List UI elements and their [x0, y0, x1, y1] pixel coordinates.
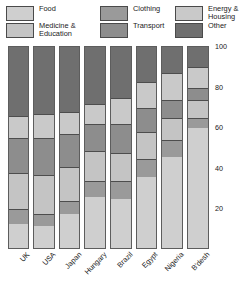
legend-label-other: Other — [208, 22, 226, 30]
x-tick-label: Nigeria — [163, 250, 186, 273]
segment-energy — [34, 114, 54, 138]
bar-japan — [59, 46, 81, 249]
segment-food — [162, 157, 182, 248]
legend-item-medicine: Medicine & Education — [6, 22, 76, 38]
y-axis: 20406080100 — [211, 46, 247, 249]
segment-food — [188, 128, 208, 248]
y-tick-label: 80 — [215, 82, 223, 91]
y-tick-label: 40 — [215, 163, 223, 172]
segment-medicine — [111, 153, 131, 181]
segment-clothing — [162, 140, 182, 156]
segment-energy — [60, 112, 80, 134]
segment-clothing — [188, 118, 208, 128]
segment-clothing — [137, 159, 157, 177]
segment-food — [34, 226, 54, 248]
stacked-bar-chart: FoodMedicine & EducationClothingTranspor… — [0, 0, 247, 282]
segment-medicine — [162, 118, 182, 140]
bar-bdesh — [187, 46, 209, 249]
bar-egypt — [136, 46, 158, 249]
segment-medicine — [188, 100, 208, 118]
segment-other — [34, 46, 54, 114]
bar-uk — [8, 46, 30, 249]
segment-transport — [162, 100, 182, 118]
legend-label-food: Food — [39, 5, 56, 13]
segment-transport — [85, 124, 105, 150]
bar-usa — [33, 46, 55, 249]
y-tick-label: 100 — [215, 42, 227, 51]
segment-transport — [188, 88, 208, 100]
segment-transport — [34, 138, 54, 175]
legend-swatch-clothing — [100, 6, 128, 21]
segment-clothing — [85, 181, 105, 197]
segment-clothing — [111, 181, 131, 199]
x-axis: UKUSAJapanHungaryBrazilEgyptNigeriaB'des… — [6, 250, 216, 282]
segment-energy — [9, 116, 29, 138]
bar-hungary — [84, 46, 106, 249]
segment-clothing — [9, 209, 29, 223]
legend-item-other: Other — [175, 22, 226, 38]
segment-energy — [111, 98, 131, 124]
segment-food — [137, 177, 157, 248]
segment-energy — [162, 73, 182, 99]
segment-food — [9, 224, 29, 248]
segment-clothing — [60, 201, 80, 213]
segment-food — [111, 199, 131, 248]
plot-area — [6, 46, 211, 249]
legend-swatch-transport — [100, 23, 128, 38]
segment-transport — [137, 108, 157, 132]
segment-medicine — [34, 175, 54, 214]
bar-nigeria — [161, 46, 183, 249]
segment-medicine — [85, 151, 105, 181]
segment-transport — [9, 138, 29, 173]
y-tick-label: 60 — [215, 123, 223, 132]
segment-other — [111, 46, 131, 98]
segment-other — [60, 46, 80, 112]
legend-swatch-energy — [175, 6, 203, 21]
segment-energy — [188, 67, 208, 87]
legend-swatch-food — [6, 6, 34, 21]
segment-transport — [111, 124, 131, 152]
segment-medicine — [137, 132, 157, 158]
y-tick-label: 20 — [215, 204, 223, 213]
legend-item-clothing: Clothing — [100, 5, 160, 21]
segment-food — [85, 197, 105, 248]
chart-legend: FoodMedicine & EducationClothingTranspor… — [0, 0, 247, 42]
x-tick-label: Egypt — [140, 250, 160, 270]
x-tick-label: Japan — [63, 250, 83, 271]
legend-label-clothing: Clothing — [133, 5, 160, 13]
segment-food — [60, 214, 80, 249]
legend-item-energy: Energy & Housing — [175, 5, 238, 21]
x-tick-label: B'desh — [189, 250, 211, 272]
legend-label-medicine: Medicine & Education — [39, 22, 76, 38]
x-tick-label: UK — [18, 250, 32, 264]
segment-other — [85, 46, 105, 104]
legend-item-food: Food — [6, 5, 56, 21]
segment-medicine — [60, 167, 80, 202]
legend-swatch-other — [175, 23, 203, 38]
segment-other — [9, 46, 29, 116]
segment-energy — [85, 104, 105, 124]
x-tick-label: USA — [40, 250, 57, 267]
segment-medicine — [9, 173, 29, 210]
bar-brazil — [110, 46, 132, 249]
legend-item-transport: Transport — [100, 22, 164, 38]
segment-other — [137, 46, 157, 82]
segment-other — [188, 46, 208, 67]
segment-transport — [60, 134, 80, 166]
segment-energy — [137, 82, 157, 108]
x-tick-label: Brazil — [115, 250, 134, 270]
legend-label-transport: Transport — [133, 22, 164, 30]
segment-clothing — [34, 214, 54, 226]
legend-swatch-medicine — [6, 23, 34, 38]
legend-label-energy: Energy & Housing — [208, 5, 238, 21]
x-tick-label: Hungary — [83, 250, 109, 276]
segment-other — [162, 46, 182, 73]
